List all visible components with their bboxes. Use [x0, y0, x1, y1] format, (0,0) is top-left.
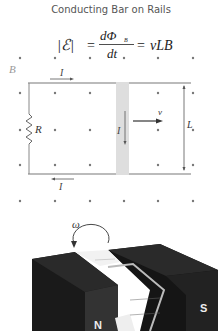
emf-magnitude: |ℰ| — [57, 37, 74, 53]
svg-text:I: I — [59, 67, 64, 78]
faraday-equation: |ℰ| = dΦ B dt = vLB — [57, 28, 173, 61]
field-dots — [19, 57, 194, 202]
svg-text:I: I — [116, 125, 121, 136]
field-label: B — [9, 63, 16, 75]
svg-text:I: I — [58, 181, 63, 192]
current-arrow-top: I — [50, 67, 74, 81]
generator-illustration: ω N S — [32, 218, 218, 331]
equals-sign-2: = — [137, 38, 145, 53]
svg-text:v: v — [158, 107, 162, 117]
current-arrow-bottom: I — [51, 178, 74, 193]
numerator: dΦ — [100, 28, 117, 43]
top-rail — [28, 82, 191, 84]
equals-sign-1: = — [87, 38, 95, 53]
denominator: dt — [107, 46, 118, 61]
south-label: S — [200, 302, 207, 314]
resistor — [26, 114, 32, 144]
velocity-arrow: v — [133, 107, 163, 124]
length-marker: L — [183, 85, 194, 171]
diagram-canvas: |ℰ| = dΦ B dt = vLB B I R I — [0, 0, 222, 331]
svg-text:L: L — [186, 119, 193, 130]
north-label: N — [94, 319, 102, 331]
rhs: vLB — [150, 38, 173, 53]
subscript-b: B — [124, 37, 128, 43]
bottom-rail — [28, 173, 191, 175]
resistor-label: R — [34, 123, 42, 135]
